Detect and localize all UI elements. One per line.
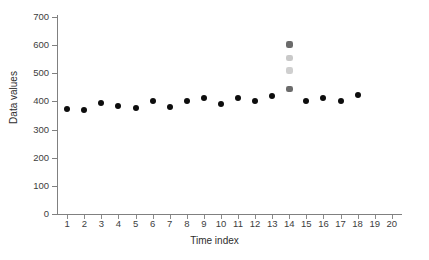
y-tick-label: 700 [21, 12, 49, 22]
y-tick [52, 214, 57, 215]
y-axis-title: Data values [8, 43, 19, 153]
data-point [201, 95, 207, 101]
data-point [252, 98, 258, 104]
data-point [286, 41, 293, 48]
data-point [167, 104, 173, 110]
data-point [286, 67, 293, 74]
y-tick-label: 600 [21, 40, 49, 50]
x-tick-label: 20 [382, 219, 402, 229]
y-tick-label: 0 [21, 209, 49, 219]
data-point [355, 92, 361, 98]
scatter-chart-figure: 0100200300400500600700 12345678910111213… [0, 0, 429, 260]
y-tick-label: 300 [21, 125, 49, 135]
data-point [64, 106, 70, 112]
plot-area [57, 17, 402, 214]
y-tick-label: 500 [21, 68, 49, 78]
y-tick-label: 400 [21, 96, 49, 106]
y-tick-label: 200 [21, 153, 49, 163]
data-point [286, 86, 293, 93]
x-axis-title: Time index [0, 235, 429, 246]
x-axis-line [57, 214, 402, 215]
data-point [286, 55, 293, 62]
data-point [303, 98, 309, 104]
data-point [184, 98, 190, 104]
data-point [133, 105, 139, 111]
data-point [150, 98, 156, 104]
data-point [338, 98, 344, 104]
y-tick-label: 100 [21, 181, 49, 191]
